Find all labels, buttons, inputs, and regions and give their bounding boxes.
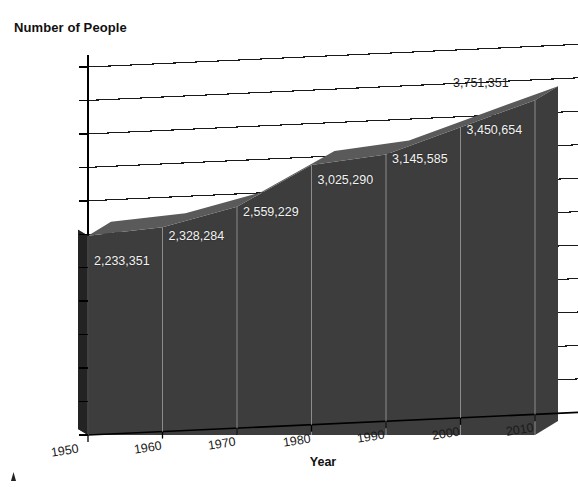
data-point-label: 3,751,351 <box>453 76 509 90</box>
chart-container: Number of People 0375,000750,0001,125,00… <box>0 0 578 487</box>
plot-area <box>0 0 578 487</box>
area-series-3d <box>78 86 558 435</box>
x-axis-title-text: Year <box>310 455 336 469</box>
data-point-label: 2,233,351 <box>94 254 150 268</box>
data-point-label: 2,328,284 <box>169 229 225 243</box>
data-point-label: 3,145,585 <box>392 152 448 166</box>
data-point-label: 3,450,654 <box>467 123 523 137</box>
data-point-label: 3,025,290 <box>318 173 374 187</box>
x-axis-title: Year <box>0 455 578 469</box>
data-point-label: 2,559,229 <box>243 205 299 219</box>
